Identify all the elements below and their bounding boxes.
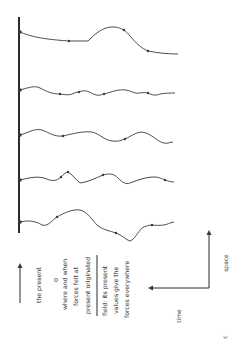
axes-indicator: space time c [148,230,230,339]
origin-dot [18,88,22,92]
field-curve-2 [18,87,175,96]
origin-dot [62,135,64,137]
field-curve-5 [18,210,174,241]
legend: the present where and when forces felt a… [18,255,132,318]
origin-dot [124,138,126,140]
time-label: time [175,309,182,323]
legend-field-line-2: values give the [112,266,120,314]
origin-dot [147,92,149,94]
corner-mark: c [221,335,228,338]
origin-dot [18,30,22,34]
arrow-up-icon [18,263,23,268]
space-arrow-icon [207,230,212,235]
origin-dot [60,176,62,178]
legend-field-line-3: forces everywhere [123,261,131,318]
legend-present-label: the present [35,267,43,303]
origin-dot [103,93,105,95]
origin-dot [115,232,117,234]
origin-dot [18,220,22,224]
field-diagram: the present where and when forces felt a… [0,0,233,341]
field-curve-1 [18,27,178,54]
origin-dot [123,29,125,31]
origin-dot [164,179,166,181]
space-label: space [222,254,230,272]
origin-dot [102,174,104,176]
origin-dot [78,91,80,93]
legend-dot-line-3: present originated [84,257,92,314]
field-curve-3 [18,130,173,144]
origin-dot [18,133,22,137]
legend-open-dot-icon [54,278,57,281]
legend-dot-line-2: forces felt at [72,266,79,306]
time-arrow-icon [148,286,153,291]
origin-dot [151,224,153,226]
origin-dot [18,178,22,182]
origin-dot [67,171,69,173]
legend-field-line-1: field: its present [101,265,109,316]
field-curve-4 [18,171,174,184]
origin-dot [56,216,58,218]
legend-dot-line-1: where and when [61,259,68,310]
origin-dot [147,50,149,52]
origin-dot [68,40,70,42]
origin-dot [59,93,61,95]
